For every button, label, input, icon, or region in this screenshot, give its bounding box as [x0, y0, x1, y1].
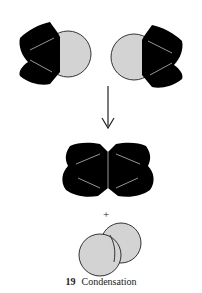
figure-number: 19 — [66, 276, 76, 287]
figure-caption: 19Condensation — [0, 276, 202, 287]
molecule-body-right — [142, 25, 183, 88]
plus-sign: + — [103, 208, 109, 220]
reactant-right — [111, 25, 183, 88]
product-dimer — [62, 143, 153, 197]
reactant-left — [19, 22, 91, 85]
condensation-diagram — [0, 0, 202, 293]
figure-caption-text: Condensation — [82, 276, 137, 287]
reaction-arrow — [102, 86, 114, 128]
byproduct-spheres — [79, 223, 141, 276]
molecule-body-left — [19, 22, 60, 85]
